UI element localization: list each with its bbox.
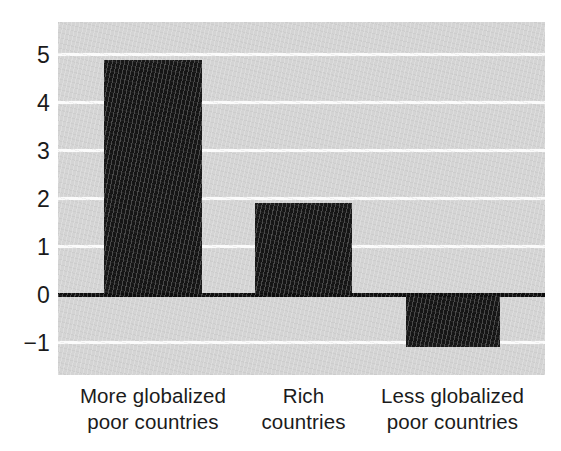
x-tick-label-less-globalized-poor-countries: Less globalized poor countries [360,383,545,435]
zero-axis-line [58,293,545,297]
x-tick-line-2: poor countries [360,409,545,435]
x-tick-label-rich-countries: Rich countries [240,383,367,435]
x-tick-label-more-globalized-poor-countries: More globalized poor countries [58,383,248,435]
y-tick-label-3: 3 [4,140,50,163]
bar-more-globalized-poor-countries [104,60,202,295]
y-tick-label-0: 0 [4,284,50,307]
x-tick-line-2: countries [240,409,367,435]
y-tick-label-1: 1 [4,236,50,259]
y-tick-label-5: 5 [4,44,50,67]
x-axis: More globalized poor countries Rich coun… [58,383,545,445]
bar-chart-figure: 5 4 3 2 1 0 −1 More globalized poor coun… [0,0,561,451]
y-tick-label-minus-1: −1 [4,332,50,355]
x-tick-line-1: Less globalized [381,384,524,407]
x-tick-line-1: Rich [283,384,324,407]
bar-rich-countries [255,203,352,295]
y-axis: 5 4 3 2 1 0 −1 [0,22,50,375]
y-tick-label-2: 2 [4,188,50,211]
plot-area [58,22,545,375]
y-tick-label-4: 4 [4,92,50,115]
x-tick-line-2: poor countries [58,409,248,435]
bar-less-globalized-poor-countries [406,297,500,347]
x-tick-line-1: More globalized [80,384,226,407]
gridline-5 [58,53,545,56]
